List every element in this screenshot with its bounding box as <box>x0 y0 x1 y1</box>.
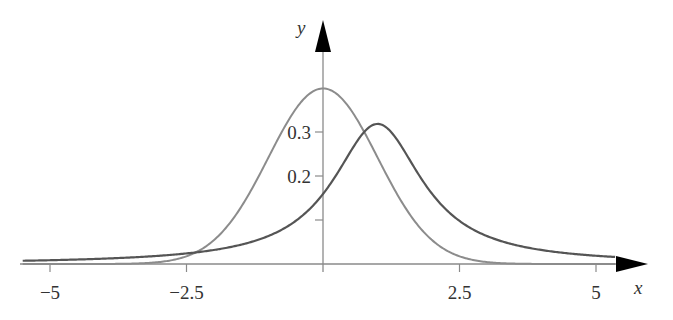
x-tick-label: −2.5 <box>169 282 203 303</box>
x-ticks: −5−2.52.55 <box>40 264 601 303</box>
x-axis-label: x <box>633 277 643 298</box>
y-tick-label: 0.3 <box>287 122 311 143</box>
x-tick-label: −5 <box>40 282 60 303</box>
y-tick-label: 0.2 <box>287 166 311 187</box>
x-tick-label: 2.5 <box>448 282 472 303</box>
x-tick-label: 5 <box>591 282 601 303</box>
cauchy-curve <box>23 124 615 261</box>
axes: −5−2.52.55 0.20.3 x y <box>20 17 648 303</box>
y-ticks: 0.20.3 <box>287 122 323 220</box>
x-axis-arrow-icon <box>616 256 648 272</box>
y-axis-arrow-icon <box>315 20 331 52</box>
y-axis-label: y <box>295 17 306 38</box>
density-plot: −5−2.52.55 0.20.3 x y <box>0 0 673 320</box>
